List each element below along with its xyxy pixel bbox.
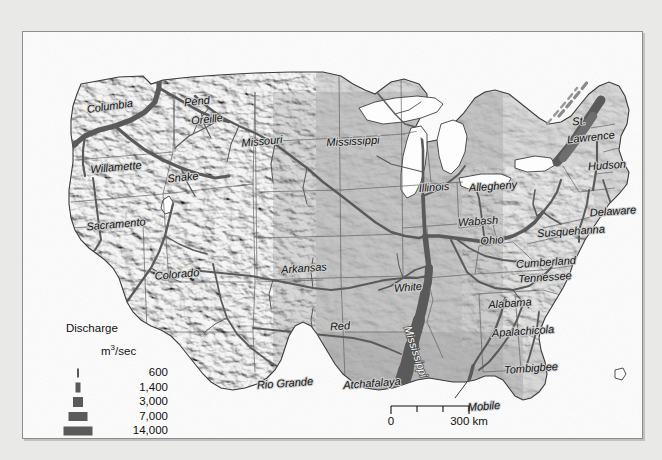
river-label-mobile: Mobile	[467, 399, 500, 413]
legend-swatch-1400	[76, 383, 81, 393]
us-rivers-map: ColumbiaPendOreilleMissouriMississippiWi…	[23, 32, 642, 438]
legend-unit: m3/sec	[101, 343, 136, 357]
legend-swatch-7000	[69, 412, 88, 421]
legend-swatch-14000	[64, 427, 93, 436]
river-label-illinois: Illinois	[418, 180, 450, 194]
scale-start-label: 0	[388, 415, 394, 427]
river-label-st: St.	[572, 114, 587, 127]
legend-value-1400: 1,400	[139, 381, 168, 393]
legend-unit-rest: /sec	[115, 345, 136, 357]
legend-unit-main: m	[101, 345, 111, 357]
figure-page: ColumbiaPendOreilleMissouriMississippiWi…	[0, 0, 662, 460]
legend-swatch-3000	[73, 397, 83, 407]
map-plate: ColumbiaPendOreilleMissouriMississippiWi…	[22, 31, 643, 439]
river-label-red: Red	[329, 319, 351, 332]
scale-end-label: 300 km	[450, 415, 488, 427]
river-label-ohio: Ohio	[480, 233, 504, 247]
legend-title: Discharge	[66, 322, 118, 334]
river-label-white: White	[393, 280, 422, 294]
legend-swatch-600	[77, 369, 79, 378]
legend-value-3000: 3,000	[139, 395, 168, 407]
legend-value-7000: 7,000	[139, 410, 168, 422]
legend-value-14000: 14,000	[133, 424, 168, 436]
legend-value-600: 600	[149, 366, 168, 378]
